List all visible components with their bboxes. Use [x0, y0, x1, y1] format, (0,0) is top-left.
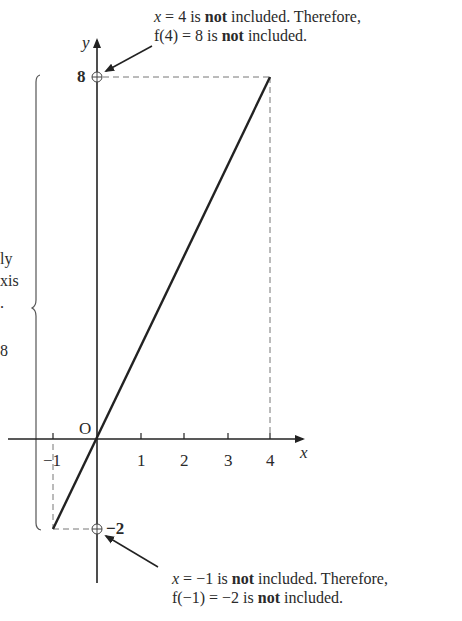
y-tick-8: 8 [77, 68, 86, 86]
x-axis-label: x [300, 444, 308, 462]
function-line [53, 77, 270, 529]
bottom-annotation-arrow [106, 536, 158, 567]
bottom-annotation-line2: f(−1) = −2 is not included. [172, 589, 343, 607]
x-tick-3: 3 [224, 452, 233, 470]
y-axis-label: y [82, 34, 90, 52]
x-tick-1: 1 [137, 452, 146, 470]
domain-brace [32, 75, 41, 530]
left-text-1: ly [0, 250, 12, 268]
left-text-4: 8 [0, 342, 8, 360]
open-point-y8 [92, 72, 102, 82]
top-annotation-line2: f(4) = 8 is not included. [154, 27, 307, 45]
left-text-2: xis [0, 272, 19, 290]
open-point-yneg2 [92, 524, 102, 534]
top-annotation-arrow [106, 46, 152, 71]
bottom-annotation-line1: x = −1 is not included. Therefore, [172, 570, 388, 588]
y-tick-neg2: −2 [106, 520, 124, 538]
x-tick-neg1: −1 [43, 452, 61, 470]
left-text-3: . [0, 294, 4, 312]
top-annotation-line1: x = 4 is not included. Therefore, [154, 8, 361, 26]
x-tick-4: 4 [266, 452, 275, 470]
graph-canvas [0, 0, 462, 621]
origin-label: O [79, 420, 91, 438]
x-tick-2: 2 [180, 452, 189, 470]
